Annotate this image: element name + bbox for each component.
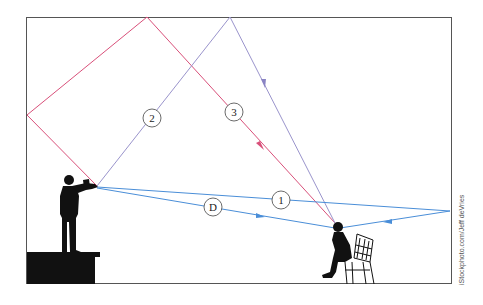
label-path-3-text: 3 bbox=[231, 106, 237, 118]
label-path-direct-text: D bbox=[209, 201, 217, 213]
label-path-1: 1 bbox=[272, 191, 290, 209]
arrow-path-direct bbox=[256, 213, 265, 218]
label-path-2: 2 bbox=[143, 109, 161, 127]
label-path-3: 3 bbox=[225, 103, 243, 121]
arrow-path-3 bbox=[256, 141, 264, 150]
sound-reflection-diagram: 2 3 1 D bbox=[0, 0, 483, 305]
room-frame bbox=[27, 18, 452, 284]
platform-silhouette bbox=[27, 252, 100, 284]
listener-silhouette bbox=[322, 222, 374, 284]
path-1-blue bbox=[97, 187, 450, 228]
label-path-1-text: 1 bbox=[278, 194, 284, 206]
photo-credit: iStockphoto.com/Jeff deVries bbox=[458, 195, 465, 285]
shooter-silhouette bbox=[60, 175, 98, 252]
path-2-purple bbox=[97, 17, 335, 223]
label-path-2-text: 2 bbox=[149, 112, 155, 124]
label-path-direct: D bbox=[204, 198, 222, 216]
